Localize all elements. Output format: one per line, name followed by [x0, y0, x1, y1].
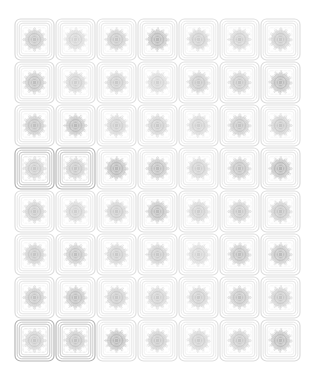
tile-artwork — [55, 18, 96, 61]
guilloche-tile — [260, 104, 301, 147]
rosette — [103, 113, 129, 139]
rosette — [103, 242, 129, 268]
rosette — [63, 113, 88, 137]
rosette — [145, 156, 170, 181]
tile-artwork — [219, 319, 260, 362]
rosette — [103, 198, 129, 224]
tile-artwork — [96, 233, 137, 276]
rosette — [22, 156, 47, 181]
tile-artwork — [14, 18, 55, 61]
guilloche-tile — [55, 18, 96, 61]
tile-artwork — [55, 104, 96, 147]
rosette — [22, 27, 47, 52]
guilloche-tile — [260, 147, 301, 190]
rosette — [145, 242, 170, 266]
guilloche-tile — [14, 61, 55, 104]
rosette — [62, 26, 88, 52]
tile-artwork — [55, 233, 96, 276]
tile-artwork — [96, 276, 137, 319]
rosette — [185, 155, 211, 181]
guilloche-tile — [219, 190, 260, 233]
tile-artwork — [219, 104, 260, 147]
tile-artwork — [55, 147, 96, 190]
rosette — [104, 156, 130, 181]
guilloche-tile — [14, 276, 55, 319]
guilloche-tile — [219, 276, 260, 319]
tile-artwork — [260, 147, 301, 190]
rosette — [104, 70, 129, 95]
rosette — [104, 328, 129, 352]
rosette — [268, 285, 294, 310]
tile-artwork — [14, 233, 55, 276]
tile-artwork — [219, 61, 260, 104]
rosette — [185, 327, 211, 353]
tile-artwork — [96, 61, 137, 104]
rosette — [145, 285, 170, 310]
tile-artwork — [260, 276, 301, 319]
rosette — [226, 241, 252, 267]
rosette — [227, 328, 252, 353]
tile-artwork — [219, 233, 260, 276]
guilloche-tile — [219, 104, 260, 147]
guilloche-tile — [137, 104, 178, 147]
rosette — [63, 199, 89, 224]
rosette — [145, 27, 171, 52]
tile-artwork — [14, 147, 55, 190]
rosette — [268, 156, 293, 181]
guilloche-tile — [96, 233, 137, 276]
guilloche-tile — [14, 233, 55, 276]
rosette — [103, 285, 129, 311]
guilloche-tile — [260, 190, 301, 233]
rosette — [22, 285, 47, 310]
tile-artwork — [137, 18, 178, 61]
guilloche-tile — [55, 61, 96, 104]
tile-artwork — [55, 319, 96, 362]
rosette — [22, 199, 47, 224]
guilloche-tile — [260, 18, 301, 61]
tile-artwork — [219, 190, 260, 233]
guilloche-tile — [219, 61, 260, 104]
tile-artwork — [260, 319, 301, 362]
tile-artwork — [219, 147, 260, 190]
guilloche-tile — [96, 190, 137, 233]
rosette — [22, 70, 47, 95]
tile-grid — [14, 18, 301, 362]
guilloche-tile — [178, 319, 219, 362]
guilloche-tile — [178, 18, 219, 61]
guilloche-tile — [55, 233, 96, 276]
tile-artwork — [14, 104, 55, 147]
tile-artwork — [96, 104, 137, 147]
rosette — [62, 156, 88, 182]
tile-artwork — [178, 61, 219, 104]
tile-artwork — [14, 61, 55, 104]
tile-artwork — [55, 276, 96, 319]
tile-artwork — [55, 190, 96, 233]
tile-artwork — [178, 190, 219, 233]
guilloche-tile — [260, 319, 301, 362]
tile-artwork — [178, 276, 219, 319]
guilloche-tile — [260, 61, 301, 104]
rosette — [22, 328, 47, 353]
guilloche-tile — [14, 319, 55, 362]
tile-artwork — [178, 18, 219, 61]
rosette — [267, 70, 293, 96]
guilloche-tile — [14, 18, 55, 61]
rosette — [185, 198, 211, 224]
tile-artwork — [260, 18, 301, 61]
rosette — [227, 285, 252, 310]
guilloche-tile — [137, 319, 178, 362]
rosette — [22, 113, 48, 139]
guilloche-tile — [178, 190, 219, 233]
tile-artwork — [219, 18, 260, 61]
guilloche-tile — [55, 319, 96, 362]
guilloche-tile — [219, 233, 260, 276]
tile-artwork — [55, 61, 96, 104]
guilloche-tile — [178, 104, 219, 147]
guilloche-tile — [137, 190, 178, 233]
guilloche-tile — [55, 190, 96, 233]
tile-artwork — [260, 190, 301, 233]
rosette — [227, 70, 252, 95]
rosette — [62, 70, 88, 96]
tile-artwork — [14, 276, 55, 319]
guilloche-tile — [260, 233, 301, 276]
